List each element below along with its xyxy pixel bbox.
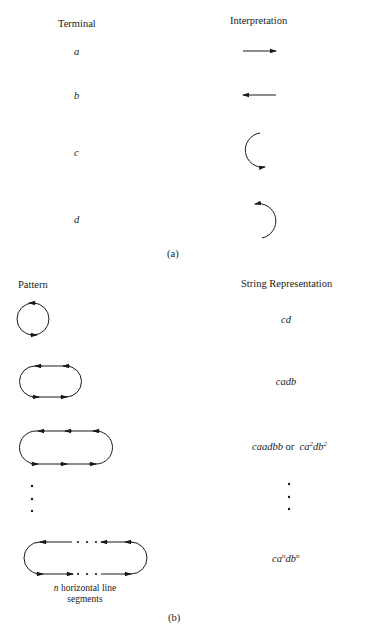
string-row-3-plain: caadbb [252, 441, 283, 452]
caption-line-1: horizontal line [59, 583, 117, 593]
string-row-2: cadb [276, 377, 296, 388]
pattern-stadium-1-icon [20, 366, 82, 397]
string-row-3: caadbb or ca2db2 [252, 441, 327, 453]
string-row-n-base2: db [285, 553, 296, 564]
terminal-header: Terminal [58, 19, 96, 30]
pattern-stadium-2-icon [20, 431, 113, 464]
pattern-stadium-n-icon [24, 542, 147, 574]
terminal-d-label: d [74, 215, 79, 226]
terminal-c-arc-icon [245, 133, 265, 167]
string-row-n-base1: ca [272, 553, 282, 564]
terminal-b-label: b [74, 91, 79, 102]
n-segments-caption: n horizontal line segments [54, 583, 116, 605]
figure-drawing [0, 0, 387, 638]
panel-b-label: (b) [168, 613, 180, 624]
terminal-a-label: a [74, 47, 79, 58]
caption-line-2: segments [54, 594, 116, 605]
string-row-1: cd [281, 315, 291, 326]
string-vertical-ellipsis-icon [288, 483, 290, 510]
string-row-3-exp2: 2 [323, 440, 327, 448]
pattern-header: Pattern [18, 280, 48, 291]
string-row-3-or: or [286, 441, 295, 452]
pattern-vertical-ellipsis-icon [31, 485, 33, 512]
string-row-3-base1: ca [300, 441, 310, 452]
terminal-d-arc-icon [255, 204, 276, 238]
panel-a-label: (a) [167, 249, 179, 260]
string-representation-header: String Representation [241, 279, 332, 290]
pattern-circle-icon [17, 303, 49, 335]
terminal-c-label: c [74, 148, 79, 159]
string-row-n: candbn [272, 553, 299, 565]
string-row-3-base2: db [313, 441, 324, 452]
interpretation-header: Interpretation [230, 16, 287, 27]
string-row-n-exp2: n [296, 552, 300, 560]
